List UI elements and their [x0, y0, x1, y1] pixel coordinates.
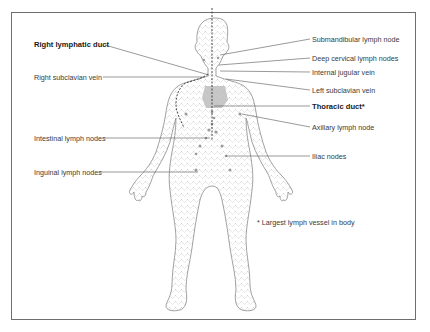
label-deep-cervical-lymph-nodes: Deep cervical lymph nodes: [312, 54, 398, 63]
label-axillary-lymph-node: Axillary lymph node: [312, 123, 374, 132]
label-thoracic-duct: Thoracic duct*: [312, 102, 365, 111]
footnote: * Largest lymph vessel in body: [257, 218, 354, 227]
label-left-subclavian-vein: Left subclavian vein: [312, 86, 375, 95]
label-intestinal-lymph-nodes: Intestinal lymph nodes: [34, 134, 106, 143]
label-submandibular-lymph-node: Submandibular lymph node: [312, 35, 400, 44]
label-right-subclavian-vein: Right subclavian vein: [34, 73, 102, 82]
heart-shading: [202, 86, 228, 108]
lymphatic-body-illustration: [0, 0, 430, 332]
label-internal-jugular-vein: Internal jugular vein: [312, 68, 375, 77]
body-outline: [129, 18, 292, 311]
label-inguinal-lymph-nodes: Inguinal lymph nodes: [34, 168, 102, 177]
label-iliac-nodes: Iliac nodes: [312, 152, 346, 161]
label-right-lymphatic-duct: Right lymphatic duct: [34, 40, 109, 49]
